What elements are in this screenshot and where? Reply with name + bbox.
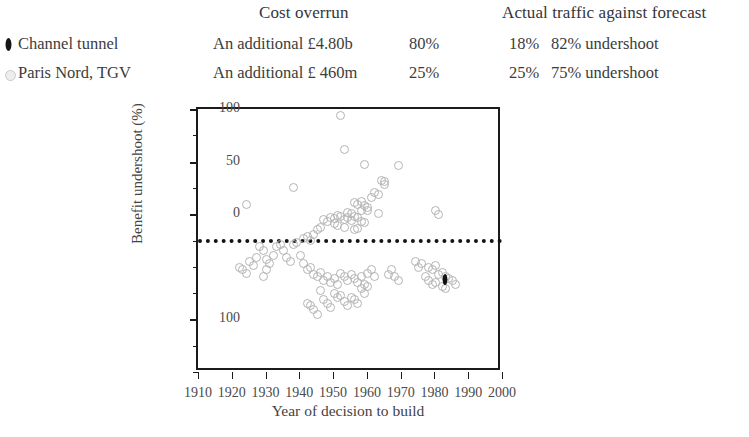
- data-point: [303, 299, 312, 308]
- y-axis-tick: [190, 109, 198, 111]
- traffic-percent: 18%: [509, 34, 539, 54]
- data-point: [434, 210, 443, 219]
- scatter-chart: Benefit undershoot (%) 100500100 1910192…: [0, 92, 749, 437]
- data-point: [313, 310, 322, 319]
- data-point: [289, 183, 298, 192]
- data-point: [411, 257, 420, 266]
- cost-overrun-percent: 25%: [409, 63, 439, 83]
- y-axis-tick: [193, 293, 198, 294]
- traffic-undershoot-text: 75% undershoot: [551, 63, 659, 83]
- y-axis-tick-label: 100: [200, 310, 240, 326]
- data-point: [333, 280, 342, 289]
- cost-overrun-percent: 80%: [409, 34, 439, 54]
- y-axis-tick-label: 100: [200, 100, 240, 116]
- y-axis-tick-label: 50: [200, 153, 240, 169]
- y-axis-tick: [193, 241, 198, 242]
- data-point: [380, 180, 389, 189]
- data-point: [340, 145, 349, 154]
- y-axis-tick: [193, 267, 198, 268]
- data-point: [306, 236, 315, 245]
- filled-diamond-marker: [5, 38, 14, 51]
- data-point: [363, 282, 372, 291]
- data-point: [374, 209, 383, 218]
- column-header-cost-overrun: Cost overrun: [259, 3, 349, 23]
- x-axis-tick-label: 2000: [480, 385, 524, 401]
- open-circle-marker: [5, 67, 14, 80]
- x-axis-tick: [367, 372, 368, 379]
- x-axis-tick: [502, 372, 503, 379]
- data-point: [370, 272, 379, 281]
- data-point: [326, 303, 335, 312]
- x-axis-tick: [299, 372, 300, 379]
- y-axis-tick: [190, 162, 198, 164]
- column-header-actual-traffic: Actual traffic against forecast: [502, 3, 706, 23]
- x-axis-tick: [198, 372, 199, 379]
- x-axis-tick: [266, 372, 267, 379]
- data-point: [363, 206, 372, 215]
- x-axis-tick: [468, 372, 469, 379]
- y-axis-tick: [193, 135, 198, 136]
- x-axis-tick: [232, 372, 233, 379]
- table-row: Paris Nord, TGV An additional £ 460m 25%…: [0, 61, 749, 89]
- data-point: [242, 200, 251, 209]
- data-point: [394, 276, 403, 285]
- x-axis-tick: [333, 372, 334, 379]
- traffic-undershoot-text: 82% undershoot: [551, 34, 659, 54]
- data-point: [442, 274, 447, 285]
- y-axis-tick-label: 0: [200, 205, 240, 221]
- data-point: [316, 223, 325, 232]
- data-point: [421, 272, 430, 281]
- y-axis-tick: [193, 346, 198, 347]
- x-axis-title: Year of decision to build: [196, 402, 500, 420]
- y-axis-tick: [193, 188, 198, 189]
- data-point: [367, 193, 376, 202]
- data-point: [340, 223, 349, 232]
- data-point: [353, 299, 362, 308]
- plot-area: 100500100 191019201930194019501960197019…: [196, 107, 500, 370]
- project-name: Channel tunnel: [18, 34, 118, 54]
- x-axis-tick: [434, 372, 435, 379]
- cost-overrun-amount: An additional £ 460m: [213, 63, 357, 83]
- project-name: Paris Nord, TGV: [18, 63, 131, 83]
- data-point: [360, 160, 369, 169]
- data-point: [292, 238, 301, 247]
- y-axis-tick: [190, 319, 198, 321]
- cost-overrun-amount: An additional £4.80b: [213, 34, 353, 54]
- y-axis-title: Benefit undershoot (%): [129, 103, 146, 244]
- x-axis-tick: [401, 372, 402, 379]
- data-point: [286, 257, 295, 266]
- traffic-percent: 25%: [509, 63, 539, 83]
- data-point: [394, 161, 403, 170]
- data-point: [441, 284, 450, 293]
- data-point: [242, 269, 251, 278]
- data-point: [353, 224, 362, 233]
- data-point: [259, 272, 268, 281]
- data-point: [269, 251, 278, 260]
- zero-reference-line: [198, 239, 502, 243]
- data-point: [451, 280, 460, 289]
- comparison-table: Cost overrun Actual traffic against fore…: [0, 0, 749, 92]
- table-row: Channel tunnel An additional £4.80b 80% …: [0, 32, 749, 60]
- y-axis-tick: [190, 214, 198, 216]
- data-point: [336, 111, 345, 120]
